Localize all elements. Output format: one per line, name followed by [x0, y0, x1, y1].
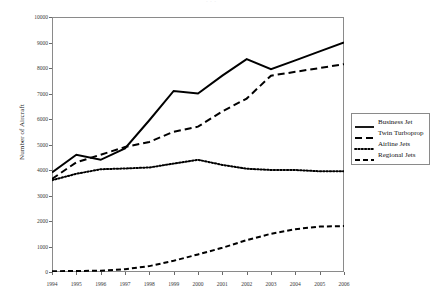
- x-tick-mark-1999: [174, 272, 175, 275]
- legend-item-regional-jets[interactable]: Regional Jets: [354, 150, 427, 161]
- legend-swatch-icon: [354, 140, 375, 150]
- legend-item-business-jet[interactable]: Business Jet: [354, 117, 427, 128]
- legend-label: Business Jet: [378, 118, 412, 127]
- legend-swatch-icon: [354, 118, 375, 128]
- x-tick-mark-1998: [149, 272, 150, 275]
- legend-item-twin-turboprop[interactable]: Twin Turboprop: [354, 128, 427, 139]
- legend-item-airline-jets[interactable]: Airline Jets: [354, 139, 427, 150]
- x-tick-mark-2003: [271, 272, 272, 275]
- chart-figure: · · · Number of Aircraft 100009000800070…: [0, 0, 431, 304]
- x-tick-mark-1996: [101, 272, 102, 275]
- x-tick-mark-1995: [76, 272, 77, 275]
- x-tick-mark-2001: [222, 272, 223, 275]
- legend-label: Twin Turboprop: [378, 129, 424, 138]
- x-tick-mark-2006: [344, 272, 345, 275]
- x-tick-mark-2002: [247, 272, 248, 275]
- x-tick-mark-2004: [295, 272, 296, 275]
- legend-label: Airline Jets: [378, 140, 410, 149]
- x-tick-mark-2005: [320, 272, 321, 275]
- x-tick-mark-2000: [198, 272, 199, 275]
- legend-label: Regional Jets: [378, 151, 416, 160]
- chart-legend: Business JetTwin TurbopropAirline JetsRe…: [351, 113, 430, 165]
- x-tick-mark-1997: [125, 272, 126, 275]
- legend-swatch-icon: [354, 151, 375, 161]
- legend-swatch-icon: [354, 129, 375, 139]
- x-tick-label-2006: 2006: [329, 281, 359, 288]
- x-tick-mark-1994: [52, 272, 53, 275]
